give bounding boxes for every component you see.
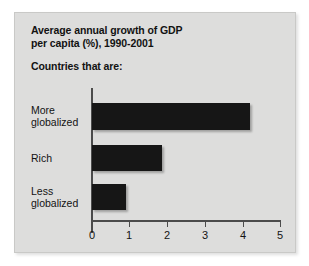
x-axis-tick-0 bbox=[92, 222, 93, 227]
x-axis-tick-label-1: 1 bbox=[119, 229, 139, 241]
bar-less-globalized bbox=[92, 184, 126, 210]
x-axis-tick-1 bbox=[129, 222, 130, 227]
category-label-line: More bbox=[31, 104, 91, 116]
category-label-line: globalized bbox=[31, 197, 91, 209]
category-label-line: Rich bbox=[31, 152, 91, 164]
chart-figure: Average annual growth of GDP per capita … bbox=[0, 0, 309, 266]
x-axis-tick-label-2: 2 bbox=[157, 229, 177, 241]
x-axis-tick-label-5: 5 bbox=[270, 229, 290, 241]
category-label-less-globalized: Less globalized bbox=[31, 185, 91, 209]
chart-panel: Average annual growth of GDP per capita … bbox=[14, 12, 296, 253]
x-axis-tick-3 bbox=[205, 222, 206, 227]
x-axis-tick-label-3: 3 bbox=[195, 229, 215, 241]
bar-more-globalized bbox=[92, 103, 250, 130]
x-axis-tick-4 bbox=[243, 222, 244, 227]
category-label-more-globalized: More globalized bbox=[31, 104, 91, 128]
plot-area: 0 1 2 3 4 5 More globalized Rich Less gl… bbox=[15, 13, 297, 254]
category-label-line: globalized bbox=[31, 116, 91, 128]
x-axis-tick-5 bbox=[280, 222, 281, 227]
x-axis-line bbox=[91, 220, 281, 222]
category-label-line: Less bbox=[31, 185, 91, 197]
bar-rich bbox=[92, 145, 162, 171]
x-axis-tick-label-4: 4 bbox=[233, 229, 253, 241]
x-axis-tick-2 bbox=[167, 222, 168, 227]
x-axis-tick-label-0: 0 bbox=[82, 229, 102, 241]
category-label-rich: Rich bbox=[31, 152, 91, 164]
